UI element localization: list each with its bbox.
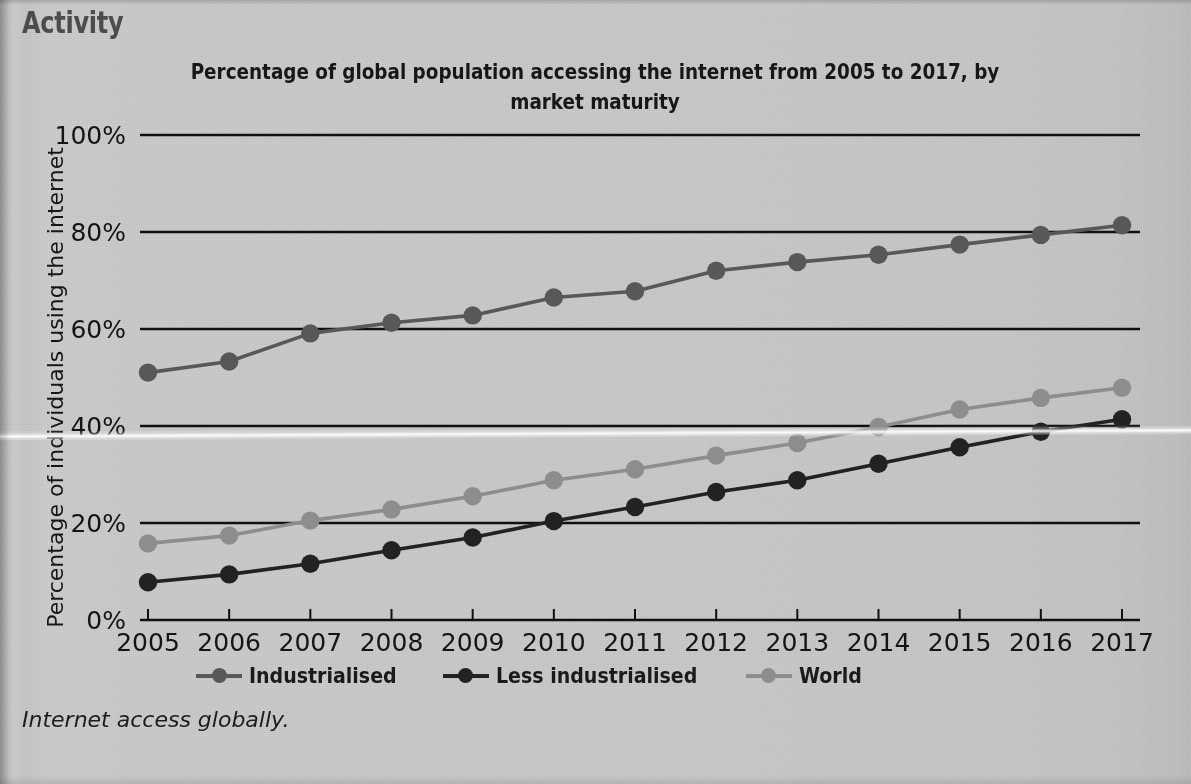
data-point: [220, 352, 238, 370]
data-point: [707, 483, 725, 501]
x-tick-label: 2008: [360, 628, 424, 657]
data-point: [1113, 216, 1131, 234]
legend-entry-less-industrialised[interactable]: Less industrialised: [443, 663, 706, 688]
x-tick-label: 2010: [522, 628, 586, 657]
data-point: [545, 471, 563, 489]
data-point: [1032, 423, 1050, 441]
x-tick-label: 2005: [116, 628, 180, 657]
x-tick-label: 2016: [1009, 628, 1073, 657]
data-point: [464, 487, 482, 505]
x-tick-label: 2009: [441, 628, 505, 657]
legend-label-industrialised: Industrialised: [249, 663, 397, 688]
data-series: [139, 216, 1131, 591]
chart-legend: Industrialised Less industrialised World: [150, 663, 910, 688]
y-tick-label: 40%: [70, 412, 126, 441]
legend-marker-icon: [746, 668, 792, 684]
x-tick-label: 2017: [1090, 628, 1154, 657]
legend-marker-icon: [196, 668, 242, 684]
x-tick-label: 2012: [684, 628, 748, 657]
data-point: [707, 262, 725, 280]
legend-dot-industrialised: [212, 668, 227, 683]
data-point: [545, 288, 563, 306]
y-tick-label: 100%: [55, 121, 126, 150]
legend-entry-industrialised[interactable]: Industrialised: [196, 663, 403, 688]
data-point: [788, 253, 806, 271]
y-tick-label: 60%: [70, 315, 126, 344]
x-tick-label: 2013: [766, 628, 830, 657]
data-point: [382, 500, 400, 518]
data-point: [464, 306, 482, 324]
legend-dot-less-industrialised: [458, 668, 473, 683]
data-point: [951, 235, 969, 253]
data-point: [1032, 389, 1050, 407]
y-axis-tick-labels: 0%20%40%60%80%100%: [55, 121, 126, 635]
data-point: [788, 434, 806, 452]
data-point: [1113, 410, 1131, 428]
data-point: [626, 282, 644, 300]
data-point: [951, 400, 969, 418]
data-point: [626, 498, 644, 516]
legend-marker-icon: [443, 668, 489, 684]
data-point: [139, 363, 157, 381]
data-point: [545, 512, 563, 530]
scanned-figure-page: Activity Percentage of global population…: [0, 0, 1191, 784]
legend-label-world: World: [799, 663, 862, 688]
data-point: [139, 534, 157, 552]
data-point: [869, 418, 887, 436]
data-point: [301, 511, 319, 529]
data-point: [951, 438, 969, 456]
data-point: [220, 565, 238, 583]
data-point: [1032, 226, 1050, 244]
y-tick-label: 20%: [70, 509, 126, 538]
data-point: [707, 446, 725, 464]
data-point: [301, 555, 319, 573]
y-tick-label: 80%: [70, 218, 126, 247]
legend-dot-world: [761, 668, 776, 683]
x-axis-ticks: [148, 609, 1122, 620]
data-point: [382, 541, 400, 559]
data-point: [464, 528, 482, 546]
data-point: [869, 455, 887, 473]
gridlines: [140, 135, 1140, 620]
x-tick-label: 2011: [603, 628, 667, 657]
x-tick-label: 2015: [928, 628, 992, 657]
legend-entry-world[interactable]: World: [746, 663, 864, 688]
data-point: [301, 324, 319, 342]
data-point: [220, 526, 238, 544]
data-point: [1113, 379, 1131, 397]
data-point: [382, 314, 400, 332]
x-tick-label: 2007: [279, 628, 343, 657]
data-point: [139, 573, 157, 591]
data-point: [626, 460, 644, 478]
legend-label-less-industrialised: Less industrialised: [496, 663, 697, 688]
data-point: [869, 246, 887, 264]
x-axis-tick-labels: 2005200620072008200920102011201220132014…: [116, 628, 1154, 657]
data-point: [788, 471, 806, 489]
x-tick-label: 2014: [847, 628, 911, 657]
x-tick-label: 2006: [197, 628, 261, 657]
figure-caption: Internet access globally.: [22, 707, 289, 732]
